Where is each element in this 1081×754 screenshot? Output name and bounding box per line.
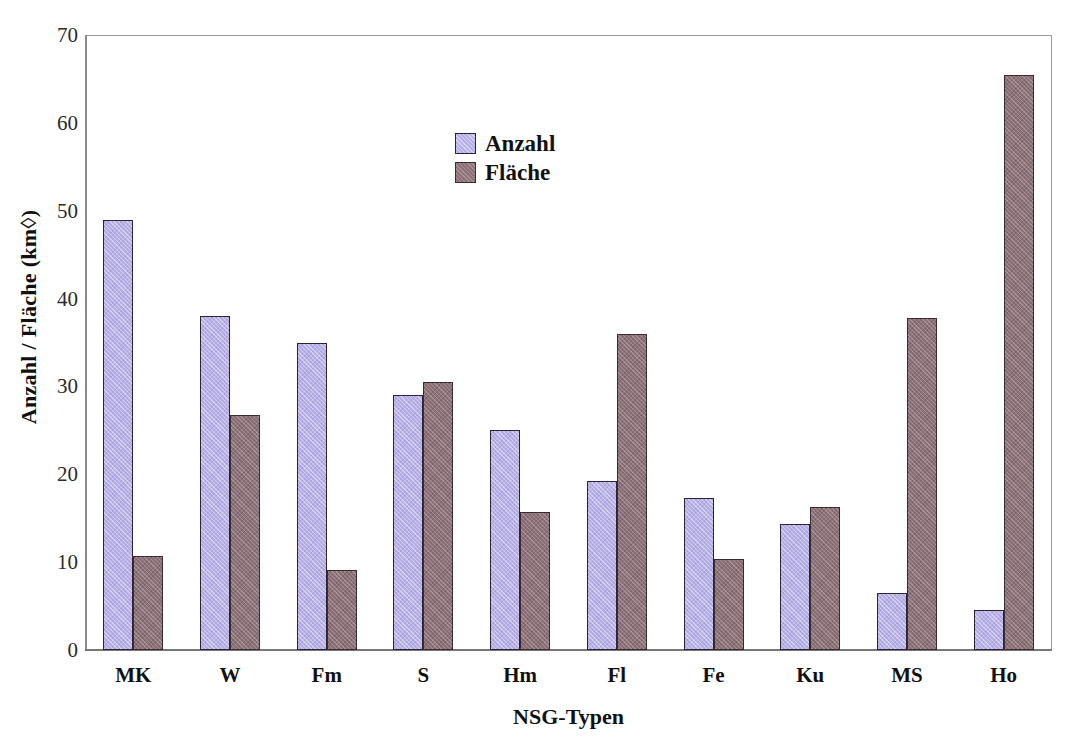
- bar-ku-anzahl[interactable]: [780, 524, 810, 651]
- x-tick-label: Fe: [665, 661, 762, 693]
- bar-group: [182, 35, 279, 650]
- x-tick-label: MS: [859, 661, 956, 693]
- legend-swatch-icon: [455, 162, 476, 183]
- bar-ho-anzahl[interactable]: [974, 610, 1004, 650]
- bar-group: [278, 35, 375, 650]
- bar-fl-anzahl[interactable]: [587, 481, 617, 650]
- x-tick-label: MK: [85, 661, 182, 693]
- bar-fe-anzahl[interactable]: [684, 498, 714, 650]
- legend-label: Anzahl: [485, 132, 555, 155]
- bar-ms-fläche[interactable]: [907, 318, 937, 650]
- y-axis-title: Anzahl / Fläche (km◊): [16, 102, 42, 532]
- bar-fm-anzahl[interactable]: [297, 343, 327, 651]
- bar-fl-fläche[interactable]: [617, 334, 647, 650]
- bar-ku-fläche[interactable]: [810, 507, 840, 650]
- bar-w-fläche[interactable]: [230, 415, 260, 650]
- bars-layer: [85, 35, 1052, 650]
- x-axis-title: NSG-Typen: [85, 704, 1052, 730]
- bar-ms-anzahl[interactable]: [877, 593, 907, 650]
- scan-edge: [0, 736, 1081, 754]
- bar-group: [955, 35, 1052, 650]
- bar-group: [859, 35, 956, 650]
- bar-fm-fläche[interactable]: [327, 570, 357, 650]
- legend-entry-fläche[interactable]: Fläche: [455, 161, 555, 184]
- bar-s-anzahl[interactable]: [393, 395, 423, 650]
- x-axis-tick-labels: MKWFmSHmFlFeKuMSHo: [85, 661, 1052, 693]
- bar-group: [665, 35, 762, 650]
- chart-legend: AnzahlFläche: [455, 132, 555, 184]
- bar-w-anzahl[interactable]: [200, 316, 230, 650]
- y-tick-label: 10: [32, 552, 78, 573]
- bars-container: [85, 35, 1052, 650]
- x-tick-label: Fl: [569, 661, 666, 693]
- bar-hm-anzahl[interactable]: [490, 430, 520, 650]
- legend-entry-anzahl[interactable]: Anzahl: [455, 132, 555, 155]
- x-tick-label: Fm: [278, 661, 375, 693]
- chart-figure: 010203040506070 Anzahl / Fläche (km◊) An…: [0, 0, 1081, 754]
- x-tick-label: Ku: [762, 661, 859, 693]
- x-tick-label: W: [182, 661, 279, 693]
- x-tick-label: S: [375, 661, 472, 693]
- bar-fe-fläche[interactable]: [714, 559, 744, 650]
- legend-swatch-icon: [455, 133, 476, 154]
- bar-ho-fläche[interactable]: [1004, 75, 1034, 650]
- bar-group: [472, 35, 569, 650]
- legend-label: Fläche: [485, 161, 550, 184]
- bar-mk-anzahl[interactable]: [103, 220, 133, 651]
- bar-group: [762, 35, 859, 650]
- bar-group: [375, 35, 472, 650]
- x-tick-label: Ho: [955, 661, 1052, 693]
- bar-group: [85, 35, 182, 650]
- bar-s-fläche[interactable]: [423, 382, 453, 650]
- x-tick-label: Hm: [472, 661, 569, 693]
- bar-group: [569, 35, 666, 650]
- bar-hm-fläche[interactable]: [520, 512, 550, 650]
- y-tick-label: 0: [32, 640, 78, 661]
- bar-mk-fläche[interactable]: [133, 556, 163, 650]
- y-tick-label: 70: [32, 25, 78, 46]
